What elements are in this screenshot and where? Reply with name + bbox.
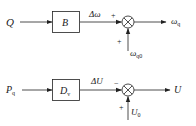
input-label-pq: Pq: [5, 84, 15, 96]
delta-omega-label: Δω: [88, 9, 101, 19]
sum-sign-left: +: [111, 11, 116, 20]
input-label-q: Q: [6, 16, 14, 28]
top-diagram: Q B Δω + + ωq0 ωq: [6, 9, 180, 59]
sum-sign-bottom: +: [117, 37, 122, 46]
output-label: U: [174, 84, 182, 95]
sum-sign-bottom: +: [119, 103, 124, 112]
block-diagram: Q B Δω + + ωq0 ωq Pq Dv ΔU − +: [0, 0, 196, 126]
output-label: ωq: [171, 16, 180, 27]
reference-label: U0: [131, 107, 141, 118]
summing-junction-icon: [122, 84, 134, 96]
bottom-diagram: Pq Dv ΔU − + U0 U: [5, 76, 182, 120]
sum-sign-left: −: [114, 79, 119, 88]
summing-junction-icon: [122, 16, 134, 28]
delta-u-label: ΔU: [90, 76, 103, 86]
reference-label: ωq0: [130, 48, 142, 59]
block-b-label: B: [62, 17, 68, 28]
block-dv-label: Dv: [59, 85, 70, 97]
